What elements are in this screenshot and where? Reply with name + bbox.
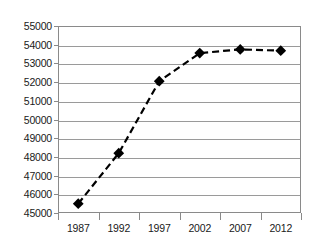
line-chart: 4500046000470004800049000500005100052000… xyxy=(0,0,314,249)
y-tick-label: 46000 xyxy=(24,188,52,200)
y-tick-label: 55000 xyxy=(24,20,52,32)
data-series xyxy=(58,26,301,213)
series-line xyxy=(78,49,281,203)
data-point-marker xyxy=(275,45,286,56)
y-tick-label: 51000 xyxy=(24,95,52,107)
x-tick-label: 1997 xyxy=(148,222,171,234)
x-axis-tick-marks xyxy=(58,213,301,221)
y-tick-label: 50000 xyxy=(24,114,52,126)
x-tick-mark xyxy=(220,213,221,220)
y-tick-label: 53000 xyxy=(24,57,52,69)
x-tick-mark xyxy=(58,213,59,220)
data-point-marker xyxy=(154,76,165,87)
y-tick-label: 48000 xyxy=(24,151,52,163)
x-tick-mark xyxy=(139,213,140,220)
data-point-marker xyxy=(235,44,246,55)
y-tick-label: 49000 xyxy=(24,132,52,144)
x-tick-label: 2012 xyxy=(269,222,292,234)
x-axis-labels: 198719921997200220072012 xyxy=(58,222,301,242)
x-tick-mark xyxy=(180,213,181,220)
x-tick-mark xyxy=(99,213,100,220)
y-tick-label: 45000 xyxy=(24,207,52,219)
x-tick-label: 2007 xyxy=(229,222,252,234)
x-tick-label: 1992 xyxy=(107,222,130,234)
y-tick-label: 47000 xyxy=(24,170,52,182)
x-tick-label: 1987 xyxy=(67,222,90,234)
y-tick-label: 52000 xyxy=(24,76,52,88)
x-tick-label: 2002 xyxy=(188,222,211,234)
x-tick-mark xyxy=(301,213,302,220)
y-axis-labels: 4500046000470004800049000500005100052000… xyxy=(0,26,52,213)
y-tick-label: 54000 xyxy=(24,39,52,51)
x-tick-mark xyxy=(261,213,262,220)
